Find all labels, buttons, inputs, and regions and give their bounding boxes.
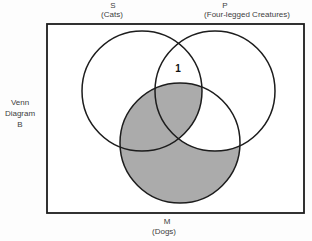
figure-caption-line3: B — [17, 120, 22, 129]
m-circle-letter: M — [164, 217, 171, 226]
p-circle-letter: P — [222, 1, 227, 10]
venn-diagram-canvas: 1 S (Cats) P (Four-legged Creatures) M (… — [0, 0, 312, 241]
p-circle-sublabel: (Four-legged Creatures) — [204, 10, 290, 19]
venn-diagram-figure: 1 S (Cats) P (Four-legged Creatures) M (… — [0, 0, 312, 241]
s-circle-sublabel: (Cats) — [101, 10, 123, 19]
region-count-label: 1 — [175, 63, 181, 74]
figure-caption-line1: Venn — [11, 98, 29, 107]
m-circle-sublabel: (Dogs) — [152, 227, 176, 236]
figure-caption-line2: Diagram — [5, 109, 36, 118]
s-circle-letter: S — [110, 1, 115, 10]
